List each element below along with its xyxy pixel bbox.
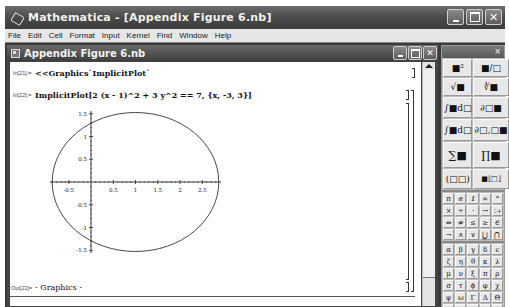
- palette-symbol-button[interactable]: ⅈ: [467, 193, 478, 204]
- palette-titlebar[interactable]: ×: [442, 46, 504, 58]
- palette-symbol-button[interactable]: ≤: [467, 217, 478, 228]
- palette-greek-button[interactable]: ϕ: [467, 280, 478, 291]
- input-cell-21[interactable]: <<Graphics`ImplicitPlot`: [35, 68, 150, 78]
- notebook-close-button[interactable]: ✕: [423, 46, 437, 60]
- palette-greek-button[interactable]: ξ: [467, 268, 478, 279]
- cell-group-bracket-22[interactable]: [411, 90, 414, 292]
- palette-symbol-button[interactable]: ∞: [480, 193, 491, 204]
- cell-bracket-22-input[interactable]: [406, 90, 409, 100]
- palette-symbol-button[interactable]: ⅇ: [455, 193, 466, 204]
- palette-greek-button[interactable]: Θ: [492, 292, 503, 303]
- palette-greek-button[interactable]: π: [480, 268, 491, 279]
- palette-greek-button[interactable]: α: [443, 244, 454, 255]
- palette-greek-button[interactable]: Δ: [480, 292, 491, 303]
- palette-greek-button[interactable]: β: [455, 244, 466, 255]
- palette-integral-button[interactable]: ∫■d□: [443, 97, 472, 118]
- minimize-button[interactable]: [447, 9, 464, 25]
- palette-symbol-button[interactable]: ÷: [455, 205, 466, 216]
- palette-symbol-button[interactable]: ∈: [492, 217, 503, 228]
- menu-find[interactable]: Find: [157, 31, 173, 40]
- palette-greek-button[interactable]: χ: [492, 280, 503, 291]
- palette-greek-button[interactable]: ρ: [492, 268, 503, 279]
- notebook-titlebar[interactable]: Appendix Figure 6.nb ✕: [7, 45, 438, 61]
- palette-symbol-button[interactable]: ¬: [443, 229, 454, 240]
- cell-bracket-22-graphics[interactable]: [406, 103, 409, 280]
- palette-greek-button[interactable]: ζ: [443, 256, 454, 267]
- palette-symbol-button[interactable]: ∧: [455, 229, 466, 240]
- palette-symbol-button[interactable]: ⋃: [480, 229, 491, 240]
- cell-bracket-22-output[interactable]: [406, 282, 409, 292]
- palette-greek-button[interactable]: ω: [455, 292, 466, 303]
- palette-sqrt-button[interactable]: √■: [443, 78, 472, 96]
- menu-kernel[interactable]: Kernel: [127, 31, 150, 40]
- x-tick-label: 0.5: [109, 187, 118, 193]
- menu-cell[interactable]: Cell: [49, 31, 63, 40]
- palette-greek-button[interactable]: θ: [467, 256, 478, 267]
- palette-nth-root-button[interactable]: ∜■: [473, 78, 508, 96]
- palette-sum-button[interactable]: ∑■: [443, 142, 472, 168]
- output-cell-22[interactable]: - Graphics -: [35, 283, 82, 292]
- palette-symbol-button[interactable]: π: [443, 193, 454, 204]
- notebook-maximize-button[interactable]: [408, 46, 422, 60]
- palette-definite-integral-button[interactable]: ∫■d□: [443, 119, 472, 141]
- menu-file[interactable]: File: [8, 31, 21, 40]
- palette-power-button[interactable]: ■²: [443, 59, 472, 77]
- palette-symbol-button[interactable]: ∨: [467, 229, 478, 240]
- palette-greek-button[interactable]: μ: [443, 268, 454, 279]
- y-tick-label: -1.5: [76, 247, 87, 253]
- palette-product-button[interactable]: ∏■: [473, 142, 508, 168]
- menu-input[interactable]: Input: [102, 31, 120, 40]
- palette-greek-button[interactable]: η: [455, 256, 466, 267]
- palette-greek-button[interactable]: ν: [455, 268, 466, 279]
- scrollbar-thumb[interactable]: [423, 70, 435, 278]
- close-button[interactable]: ✕: [485, 9, 502, 25]
- palette-symbol-button[interactable]: ⧴: [492, 205, 503, 216]
- palette-part-button[interactable]: ■⟦□⟧: [473, 169, 508, 189]
- app-titlebar[interactable]: Mathematica - [Appendix Figure 6.nb] ✕: [5, 6, 505, 29]
- palette-template-grid: ■² ■/□ √■ ∜■ ∫■d□ ∂□■ ∫■d□ ∂□,□■ ∑■ ∏■ (…: [442, 58, 504, 190]
- menubar: File Edit Cell Format Input Kernel Find …: [5, 29, 505, 43]
- palette-close-icon[interactable]: ×: [493, 47, 502, 56]
- palette-symbol-button[interactable]: ·: [467, 205, 478, 216]
- cell-insertion-line: [10, 296, 415, 297]
- y-tick-label: 1.5: [78, 111, 87, 117]
- palette-greek-button[interactable]: τ: [455, 280, 466, 291]
- palette-symbol-grid: π ⅇ ⅈ ∞ ° × ÷ · → ⧴ ⇔ ≠ ≤ ≥ ∈ ¬ ∧ ∨ ⋃ ⋂: [442, 192, 504, 241]
- notebook-minimize-button[interactable]: [393, 46, 407, 60]
- palette-matrix-button[interactable]: (□□): [443, 169, 472, 189]
- implicit-plot-graphics[interactable]: -0.5 0.5 1 1.5 2 2.5 1.5 1 0.5 -0.5 -1 -…: [10, 103, 310, 303]
- palette-symbol-button[interactable]: °: [492, 193, 503, 204]
- palette-greek-button[interactable]: κ: [480, 256, 491, 267]
- menu-help[interactable]: Help: [215, 31, 231, 40]
- palette-symbol-button[interactable]: ≥: [480, 217, 491, 228]
- menu-edit[interactable]: Edit: [28, 31, 42, 40]
- palette-symbol-button[interactable]: ×: [443, 205, 454, 216]
- palette-symbol-button[interactable]: ≠: [455, 217, 466, 228]
- palette-partial-multi-button[interactable]: ∂□,□■: [473, 119, 508, 141]
- x-tick-label: 1: [134, 187, 138, 193]
- palette-partial-button[interactable]: ∂□■: [473, 97, 508, 118]
- y-tick-label: -1: [82, 225, 87, 231]
- menu-window[interactable]: Window: [179, 31, 207, 40]
- palette-fraction-button[interactable]: ■/□: [473, 59, 508, 77]
- palette-greek-button[interactable]: ϵ: [492, 244, 503, 255]
- palette-greek-button[interactable]: ψ: [443, 292, 454, 303]
- cell-bracket-21[interactable]: [412, 68, 415, 78]
- palette-greek-button[interactable]: φ: [480, 280, 491, 291]
- input-cell-22[interactable]: ImplicitPlot[2 (x - 1)^2 + 3 y^2 == 7, {…: [35, 90, 252, 100]
- palette-greek-button[interactable]: δ: [480, 244, 491, 255]
- scroll-up-arrow-icon[interactable]: [425, 64, 433, 68]
- palette-symbol-button[interactable]: ⇔: [443, 217, 454, 228]
- x-tick-label: -0.5: [63, 187, 74, 193]
- palette-greek-button[interactable]: σ: [443, 280, 454, 291]
- palette-greek-button[interactable]: γ: [467, 244, 478, 255]
- palette-symbol-button[interactable]: ⋂: [492, 229, 503, 240]
- palette-symbol-button[interactable]: →: [480, 205, 491, 216]
- notebook-scrollbar[interactable]: [422, 62, 435, 306]
- maximize-button[interactable]: [466, 9, 483, 25]
- notebook-content[interactable]: In[21]:= <<Graphics`ImplicitPlot` In[22]…: [10, 62, 421, 306]
- palette-greek-button[interactable]: Γ: [467, 292, 478, 303]
- palette-greek-button[interactable]: λ: [492, 256, 503, 267]
- menu-format[interactable]: Format: [69, 31, 94, 40]
- mathematica-app-window: Mathematica - [Appendix Figure 6.nb] ✕ F…: [5, 6, 505, 307]
